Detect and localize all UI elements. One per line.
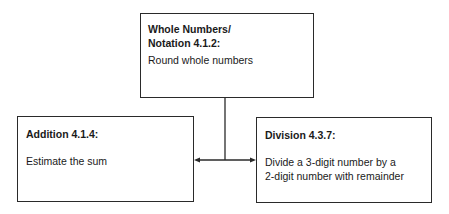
whole-numbers-box: Whole Numbers/ Notation 4.1.2: Round who… <box>140 13 314 98</box>
box-text-line: Divide a 3-digit number by a <box>265 155 423 169</box>
box-text: Divide a 3-digit number by a 2-digit num… <box>265 155 423 183</box>
box-title: Whole Numbers/ <box>148 22 306 36</box>
division-box: Division 4.3.7: Divide a 3-digit number … <box>256 117 432 203</box>
box-title: Division 4.3.7: <box>265 128 423 142</box>
addition-box: Addition 4.1.4: Estimate the sum <box>17 116 194 202</box>
box-text: Round whole numbers <box>148 53 306 67</box>
box-title: Notation 4.1.2: <box>148 36 306 50</box>
box-text-line: 2-digit number with remainder <box>265 169 423 183</box>
box-title: Addition 4.1.4: <box>26 127 185 141</box>
box-text: Estimate the sum <box>26 154 185 168</box>
arrow-left-icon <box>194 158 200 163</box>
